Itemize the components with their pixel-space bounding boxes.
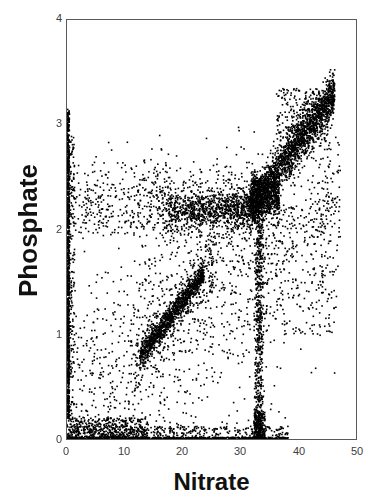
- x-tick-30: 30: [225, 445, 255, 457]
- scatter-points-canvas: [67, 20, 357, 440]
- scatter-plot-figure: 4 3 2 1 0 0 10 20 30 40 50 Phosphate Nit…: [0, 0, 379, 502]
- x-tick-50: 50: [342, 445, 372, 457]
- y-tick-3: 3: [40, 117, 62, 129]
- y-tick-0: 0: [40, 433, 62, 445]
- x-tick-20: 20: [167, 445, 197, 457]
- y-tick-4: 4: [40, 12, 62, 24]
- plot-area: [66, 19, 357, 440]
- y-tick-1: 1: [40, 328, 62, 340]
- x-tick-40: 40: [284, 445, 314, 457]
- x-tick-10: 10: [109, 445, 139, 457]
- x-tick-0: 0: [51, 445, 81, 457]
- y-axis-label: Phosphate: [13, 141, 44, 321]
- x-axis-label: Nitrate: [66, 468, 357, 496]
